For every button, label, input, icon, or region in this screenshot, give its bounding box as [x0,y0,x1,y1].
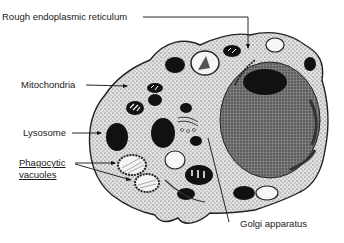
lysosome [233,186,255,200]
mitochondrion [185,165,213,185]
lysosome [190,136,202,146]
phagocytic-vacuole [266,38,284,52]
label-mitochondria: Mitochondria [21,79,75,90]
lysosome [151,118,175,148]
nucleolus [243,69,287,95]
cell-illustration [0,0,344,243]
lysosome [180,103,192,113]
label-vacuoles: vacuoles [19,169,57,180]
macrophage-diagram: Rough endoplasmic reticulum Mitochondria… [0,0,344,243]
phagocytic-vacuole [191,51,219,75]
label-golgi: Golgi apparatus [240,218,307,229]
lysosome [304,57,316,71]
label-lysosome: Lysosome [23,127,66,138]
lysosome [106,123,128,151]
lysosome [148,94,162,106]
label-rough-er: Rough endoplasmic reticulum [2,11,127,22]
phagocytic-vacuole [135,174,159,192]
mitochondrion [223,45,241,57]
label-phagocytic: Phagocytic [19,157,65,168]
phagocytic-vacuole [165,151,185,169]
lysosome [165,57,185,73]
mitochondrion [147,83,163,93]
mitochondrion [126,101,144,115]
phagocytic-vacuole [256,186,278,200]
phagocytic-vacuole [118,155,146,175]
